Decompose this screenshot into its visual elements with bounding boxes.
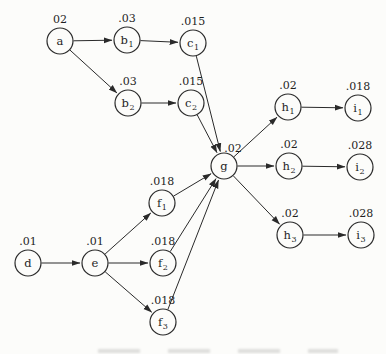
node-d: d.01	[15, 235, 41, 276]
edge-b1-c1	[141, 41, 179, 43]
node-f3: f3.018	[150, 294, 176, 335]
node-i2-value: .028	[348, 139, 373, 152]
nodes-layer: a02b1.03b2.03c1.015c2.015d.01e.01f1.018f…	[15, 12, 374, 335]
node-b2-value: .03	[119, 75, 137, 88]
node-e: e.01	[82, 235, 108, 276]
node-c1: c1.015	[180, 15, 206, 56]
edge-f3-g	[168, 180, 219, 309]
node-i3-value: .028	[349, 207, 374, 220]
node-i3: i3.028	[348, 207, 374, 248]
node-e-label: e	[92, 256, 99, 270]
edge-a-b1	[74, 40, 113, 41]
node-c1-value: .015	[181, 15, 206, 28]
figure-page: a02b1.03b2.03c1.015c2.015d.01e.01f1.018f…	[0, 0, 386, 354]
node-h2-value: .02	[280, 138, 298, 151]
edge-e-f1	[105, 213, 151, 254]
node-e-value: .01	[86, 235, 104, 248]
node-a-value: 02	[53, 13, 67, 26]
node-h2: h2.02	[276, 138, 302, 179]
node-f2: f2.018	[150, 235, 176, 276]
edge-c2-g	[197, 115, 217, 153]
node-f1: f1.018	[149, 175, 175, 216]
node-g-value: .02	[224, 142, 242, 155]
node-i2: i2.028	[347, 139, 373, 180]
node-b1: b1.03	[114, 12, 140, 53]
node-h1-value: .02	[279, 79, 297, 92]
node-f2-value: .018	[151, 235, 176, 248]
node-h3: h3.02	[277, 207, 303, 248]
node-f1-value: .018	[150, 175, 175, 188]
node-g-label: g	[220, 159, 228, 173]
node-f3-value: .018	[151, 294, 176, 307]
edge-f2-g	[170, 179, 216, 252]
node-c2-value: .015	[179, 75, 204, 88]
node-h3-value: .02	[281, 207, 299, 220]
node-edge-graph-diagram: a02b1.03b2.03c1.015c2.015d.01e.01f1.018f…	[0, 0, 386, 354]
edge-h2-i2	[303, 166, 346, 167]
node-d-value: .01	[19, 235, 37, 248]
node-g: g.02	[211, 142, 242, 179]
node-c2: c2.015	[178, 75, 204, 116]
node-i1: i1.018	[345, 80, 371, 121]
edge-e-f3	[105, 272, 152, 312]
node-a-label: a	[57, 34, 64, 48]
node-a: a02	[47, 13, 73, 54]
node-b2: b2.03	[115, 75, 141, 116]
edge-g-h3	[233, 176, 279, 224]
edge-h1-i1	[302, 107, 344, 108]
edge-a-b2	[70, 50, 117, 93]
node-d-label: d	[24, 256, 32, 270]
node-h1: h1.02	[275, 79, 301, 120]
edge-f1-g	[174, 174, 212, 196]
node-i1-value: .018	[346, 80, 371, 93]
node-b1-value: .03	[118, 12, 136, 25]
cropped-caption-remnant	[98, 349, 338, 353]
